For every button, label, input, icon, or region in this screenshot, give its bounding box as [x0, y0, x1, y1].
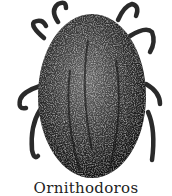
figure-caption: Ornithodoros: [0, 178, 172, 196]
tick-illustration: [0, 0, 172, 196]
